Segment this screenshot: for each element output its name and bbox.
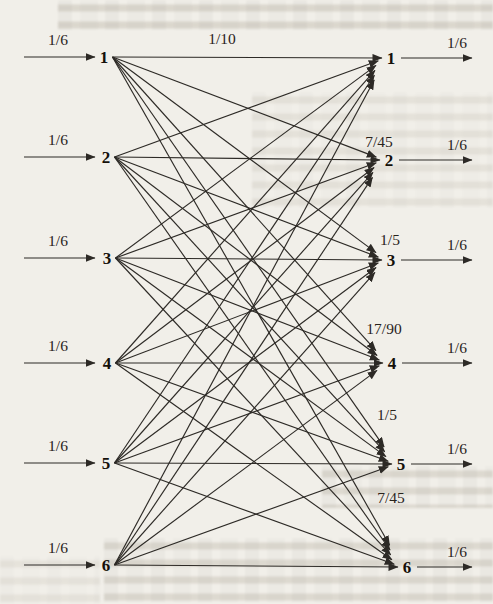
left-node-3: 3 (103, 250, 112, 267)
transition-probability-label: 7/45 (377, 490, 405, 506)
output-probability-label: 1/6 (447, 441, 467, 457)
scanned-page: 1/611/621/631/641/651/6611/621/631/641/6… (0, 0, 493, 604)
transition-edge-2-to-6 (115, 157, 391, 550)
transition-edge-3-to-1 (116, 65, 377, 258)
input-probability-label: 1/6 (48, 233, 68, 249)
output-probability-label: 1/6 (447, 237, 467, 253)
right-node-3: 3 (387, 252, 396, 269)
transition-edge-6-to-5 (115, 467, 389, 565)
transition-edge-6-to-6 (115, 565, 399, 567)
left-node-5: 5 (102, 455, 111, 472)
transition-edge-5-to-1 (115, 75, 375, 463)
output-probability-label: 1/6 (447, 340, 467, 356)
input-probability-label: 1/6 (48, 540, 68, 556)
right-node-4: 4 (388, 355, 397, 372)
transition-edge-5-to-4 (115, 366, 380, 463)
transition-edge-5-to-3 (115, 267, 377, 463)
right-node-5: 5 (397, 456, 406, 473)
left-node-4: 4 (103, 355, 112, 372)
right-node-6: 6 (403, 559, 412, 576)
transition-edge-5-to-5 (115, 463, 393, 464)
right-node-2: 2 (385, 152, 394, 169)
transition-edge-6-to-2 (115, 177, 373, 565)
transition-edge-1-to-4 (113, 57, 376, 351)
transition-edge-4-to-2 (116, 167, 375, 363)
output-probability-label: 1/6 (447, 35, 467, 51)
transition-probability-label: 1/5 (380, 232, 400, 248)
left-node-2: 2 (102, 149, 111, 166)
transition-edge-1-to-5 (113, 57, 385, 447)
input-probability-label: 1/6 (48, 438, 68, 454)
input-probability-label: 1/6 (48, 338, 68, 354)
left-node-1: 1 (100, 49, 109, 66)
transition-edge-1-to-2 (113, 57, 377, 157)
transition-edge-2-to-5 (115, 157, 385, 452)
transition-edge-4-to-1 (116, 70, 375, 363)
transition-edge-6-to-1 (115, 80, 375, 565)
transition-edge-1-to-1 (113, 57, 383, 58)
right-node-1: 1 (387, 50, 396, 67)
transition-edge-3-to-6 (116, 258, 391, 555)
transition-edge-6-to-4 (115, 370, 378, 565)
input-probability-label: 1/6 (48, 132, 68, 148)
transition-edge-1-to-3 (113, 57, 377, 253)
transition-edge-3-to-2 (116, 163, 377, 258)
left-node-6: 6 (102, 557, 111, 574)
output-probability-label: 1/6 (447, 137, 467, 153)
transition-probability-label: 1/10 (208, 31, 236, 47)
transition-edges-canvas (0, 0, 493, 604)
transition-edge-1-to-6 (113, 57, 390, 545)
transition-edge-2-to-3 (115, 157, 379, 257)
input-probability-label: 1/6 (48, 32, 68, 48)
transition-edge-3-to-5 (116, 258, 387, 457)
transition-probability-label: 7/45 (365, 134, 393, 150)
transition-probability-label: 17/90 (366, 321, 401, 337)
output-probability-label: 1/6 (447, 544, 467, 560)
transition-edge-2-to-4 (115, 157, 378, 356)
transition-edge-3-to-4 (116, 258, 380, 360)
transition-probability-label: 1/5 (377, 407, 397, 423)
